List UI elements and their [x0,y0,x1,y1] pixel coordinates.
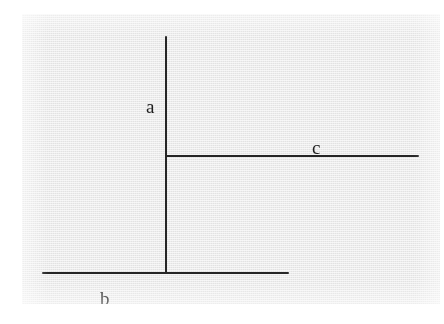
scan-vignette-overlay [22,14,440,304]
scan-texture-overlay [22,14,440,304]
line-segment-b [42,272,289,274]
label-b: b [100,289,110,304]
label-a: a [146,97,154,116]
line-segment-c [165,155,419,157]
label-c: c [312,138,320,157]
figure-root: a c b [0,0,444,324]
scanned-figure-panel: a c b [22,14,440,304]
